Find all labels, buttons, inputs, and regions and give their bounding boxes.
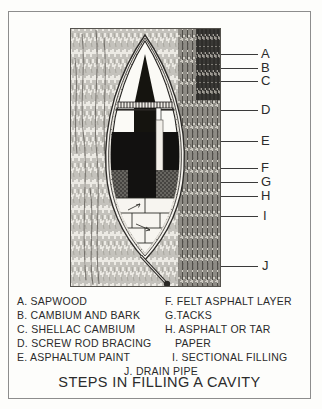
callout-letter-i: I bbox=[263, 209, 267, 222]
callout-letter-h: H bbox=[261, 189, 271, 202]
legend-item-d: D. SCREW ROD BRACING bbox=[17, 337, 152, 349]
callout-letter-d: D bbox=[261, 103, 271, 116]
callout-letter-g: G bbox=[261, 175, 271, 188]
legend-block: A. SAPWOOD F. FELT ASPHALT LAYER B. CAMB… bbox=[17, 295, 305, 367]
tree-cavity-svg bbox=[70, 28, 221, 287]
callout-letter-f: F bbox=[261, 161, 269, 174]
illustration-body bbox=[70, 28, 221, 287]
legend-item-c: C. SHELLAC CAMBIUM bbox=[17, 323, 135, 335]
tacks-row bbox=[110, 102, 180, 108]
leader-line-j bbox=[221, 266, 258, 267]
tree-cavity-illustration bbox=[70, 28, 221, 287]
callout-letter-j: J bbox=[262, 259, 269, 272]
legend-row: A. SAPWOOD F. FELT ASPHALT LAYER bbox=[17, 295, 305, 309]
felt-asphalt-layer bbox=[110, 132, 180, 170]
leader-line-g bbox=[221, 182, 258, 183]
figure-title: STEPS IN FILLING A CAVITY bbox=[9, 374, 310, 390]
legend-item-i: I. SECTIONAL FILLING bbox=[172, 351, 287, 363]
legend-item-a: A. SAPWOOD bbox=[17, 295, 87, 307]
legend-row: E. ASPHALTUM PAINT I. SECTIONAL FILLING bbox=[17, 351, 305, 365]
leader-line-a bbox=[221, 54, 258, 55]
leader-line-e bbox=[221, 141, 258, 142]
legend-item-h: H. ASPHALT OR TAR bbox=[165, 323, 271, 335]
legend-row: B. CAMBIUM AND BARK G.TACKS bbox=[17, 309, 305, 323]
page-root: A B C D E F G H I J A. SAPWOOD F. FELT A… bbox=[0, 0, 322, 409]
leader-line-f bbox=[221, 168, 258, 169]
legend-row: D. SCREW ROD BRACING PAPER bbox=[17, 337, 305, 351]
bark-band-very-dark bbox=[196, 28, 221, 100]
legend-item-b: B. CAMBIUM AND BARK bbox=[17, 309, 140, 321]
legend-item-f: F. FELT ASPHALT LAYER bbox=[165, 295, 292, 307]
leader-line-c bbox=[221, 81, 258, 82]
callout-letter-e: E bbox=[261, 134, 270, 147]
callout-letter-c: C bbox=[261, 74, 271, 87]
legend-item-h-continued: PAPER bbox=[175, 337, 211, 349]
leader-line-d bbox=[221, 110, 258, 111]
callout-letter-a: A bbox=[261, 47, 270, 60]
legend-row: C. SHELLAC CAMBIUM H. ASPHALT OR TAR bbox=[17, 323, 305, 337]
leader-line-i bbox=[221, 216, 258, 217]
legend-item-e: E. ASPHALTUM PAINT bbox=[17, 351, 130, 363]
legend-item-g: G.TACKS bbox=[165, 309, 212, 321]
tar-dark-core bbox=[128, 170, 156, 198]
leader-line-h bbox=[221, 196, 258, 197]
leader-line-b bbox=[221, 68, 258, 69]
